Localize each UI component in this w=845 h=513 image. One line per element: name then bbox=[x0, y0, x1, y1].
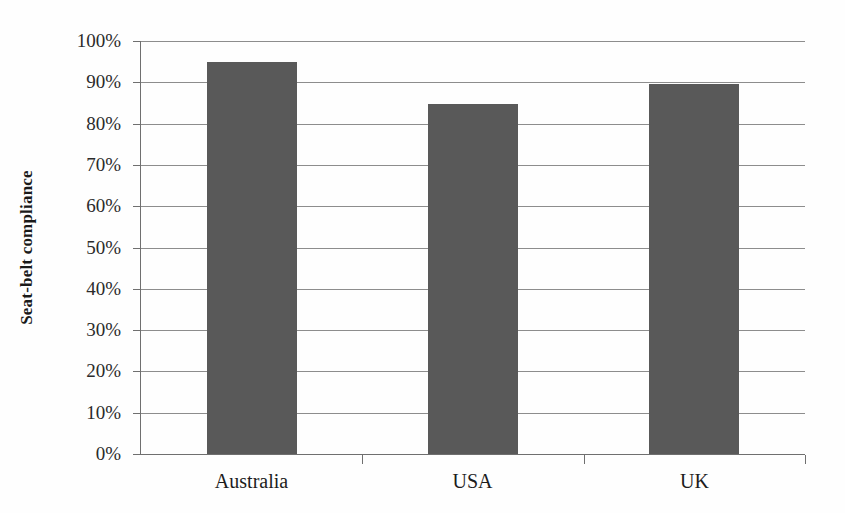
x-axis-category-label: UK bbox=[584, 468, 805, 494]
gridline bbox=[141, 41, 805, 42]
bar bbox=[649, 84, 739, 454]
y-axis-tick bbox=[133, 82, 141, 83]
x-axis-tick bbox=[805, 455, 806, 464]
y-axis-tick bbox=[133, 248, 141, 249]
y-axis-tick-label: 30% bbox=[51, 320, 121, 339]
y-axis-tick-label: 0% bbox=[51, 444, 121, 463]
y-axis-tick-label: 80% bbox=[51, 114, 121, 133]
x-axis-category-label: Australia bbox=[141, 468, 362, 494]
y-axis-tick-label: 60% bbox=[51, 196, 121, 215]
y-axis-tick bbox=[133, 41, 141, 42]
bar bbox=[207, 62, 297, 454]
y-axis-tick bbox=[133, 165, 141, 166]
y-axis-tick-label: 20% bbox=[51, 361, 121, 380]
y-axis-tick-label: 40% bbox=[51, 279, 121, 298]
y-axis-tick-label: 90% bbox=[51, 72, 121, 91]
y-axis-tick bbox=[133, 330, 141, 331]
x-axis-tick bbox=[362, 455, 363, 464]
y-axis-tick-label: 10% bbox=[51, 403, 121, 422]
y-axis-tick bbox=[133, 371, 141, 372]
y-axis-tick bbox=[133, 206, 141, 207]
y-axis-tick-labels: 100%90%80%70%60%50%40%30%20%10%0% bbox=[55, 41, 131, 454]
x-axis-tick bbox=[584, 455, 585, 464]
y-axis-tick bbox=[133, 454, 141, 455]
x-axis-tick-labels: AustraliaUSAUK bbox=[141, 468, 805, 502]
plot-area bbox=[141, 41, 805, 454]
y-axis-tick bbox=[133, 124, 141, 125]
bar bbox=[428, 104, 518, 454]
y-axis-tick bbox=[133, 413, 141, 414]
y-axis-tick bbox=[133, 289, 141, 290]
x-axis-category-label: USA bbox=[362, 468, 583, 494]
y-axis-tick-label: 70% bbox=[51, 155, 121, 174]
bar-chart: Seat-belt compliance 100%90%80%70%60%50%… bbox=[0, 0, 845, 513]
x-axis-baseline bbox=[141, 454, 805, 455]
y-axis-tick-label: 50% bbox=[51, 238, 121, 257]
y-axis-tick-label: 100% bbox=[51, 31, 121, 50]
y-axis-title: Seat-belt compliance bbox=[14, 41, 40, 454]
